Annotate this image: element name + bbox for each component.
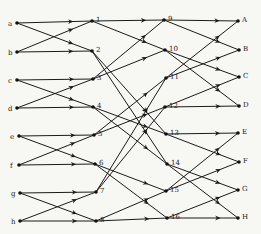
- node-label: e: [10, 133, 14, 141]
- edge-e-5: [19, 135, 94, 136]
- edge-7-12: [96, 107, 165, 192]
- node-10: [163, 48, 167, 52]
- node-9: [162, 18, 166, 22]
- arrow-icon: [217, 41, 219, 42]
- node-label: c: [8, 77, 12, 85]
- arrow-icon: [217, 154, 218, 155]
- arrow-icon: [216, 149, 217, 150]
- edge-d-3: [17, 79, 93, 108]
- node-label: A: [241, 16, 248, 24]
- edge-3-9: [93, 20, 164, 79]
- node-E: [236, 131, 240, 135]
- node-label: G: [242, 185, 248, 193]
- node-H: [236, 216, 240, 220]
- node-g: [18, 191, 22, 195]
- node-label: 15: [170, 186, 179, 194]
- node-label: 12: [169, 102, 178, 110]
- arrow-icon: [73, 213, 75, 214]
- node-b: [15, 50, 19, 54]
- node-label: 9: [168, 15, 172, 23]
- arrow-icon: [72, 156, 74, 157]
- arrow-icon: [70, 43, 72, 44]
- edge-c-3: [17, 79, 93, 80]
- edge-8-16: [96, 218, 167, 221]
- node-label: B: [243, 45, 248, 53]
- node-f: [17, 163, 21, 167]
- node-h: [18, 219, 22, 223]
- node-a: [15, 21, 19, 25]
- arrow-icon: [143, 37, 144, 38]
- arrow-icon: [217, 182, 218, 183]
- edge-b-1: [17, 21, 92, 52]
- node-label: E: [242, 128, 247, 136]
- node-label: b: [8, 49, 13, 57]
- edge-6-16: [95, 164, 167, 218]
- arrow-icon: [70, 87, 72, 88]
- node-D: [237, 104, 241, 108]
- node-label: 2: [96, 46, 100, 54]
- edge-9-A: [164, 20, 238, 21]
- node-e: [17, 134, 21, 138]
- node-label: 6: [99, 159, 104, 167]
- node-label: F: [243, 157, 248, 165]
- edge-1-10: [92, 21, 165, 50]
- node-label: 16: [171, 213, 180, 221]
- edges-group: [17, 20, 239, 221]
- edge-f-5: [19, 135, 94, 165]
- arrow-icon: [216, 37, 217, 38]
- node-14: [165, 162, 169, 166]
- node-label: f: [10, 162, 14, 170]
- node-8: [94, 219, 98, 223]
- arrow-icon: [217, 202, 218, 203]
- node-label: d: [8, 105, 13, 113]
- arrow-icon: [144, 109, 145, 111]
- node-label: h: [11, 218, 16, 226]
- node-15: [164, 189, 168, 193]
- arrow-icon: [143, 41, 144, 42]
- edge-2-14: [92, 51, 167, 164]
- arrow-icon: [217, 170, 218, 171]
- node-4: [91, 105, 95, 109]
- arrow-icon: [73, 200, 75, 201]
- arrow-icon: [145, 199, 146, 200]
- arrow-icon: [145, 183, 146, 184]
- node-label: 14: [171, 159, 180, 167]
- node-label: 8: [100, 216, 104, 224]
- node-13: [164, 132, 168, 136]
- node-16: [165, 216, 169, 220]
- node-6: [93, 162, 97, 166]
- arrow-icon: [217, 198, 218, 199]
- node-G: [236, 188, 240, 192]
- edge-g-7: [20, 192, 96, 193]
- edge-13-F: [166, 134, 239, 162]
- edge-4-14: [93, 107, 167, 164]
- node-12: [163, 105, 167, 109]
- edge-d-4: [17, 107, 93, 108]
- node-F: [237, 160, 241, 164]
- edge-1-9: [92, 20, 164, 21]
- edge-5-11: [94, 78, 166, 135]
- edge-a-1: [17, 21, 92, 23]
- node-B: [237, 48, 241, 52]
- edge-f-6: [19, 164, 95, 165]
- edge-6-15: [95, 164, 166, 191]
- node-label: C: [243, 72, 248, 80]
- node-3: [91, 77, 95, 81]
- node-label: 1: [96, 16, 100, 24]
- arrow-icon: [217, 69, 218, 70]
- node-7: [94, 190, 98, 194]
- arrow-icon: [145, 202, 146, 203]
- arrow-icon: [144, 94, 145, 95]
- node-A: [236, 19, 240, 23]
- arrow-icon: [70, 99, 72, 100]
- node-2: [90, 49, 94, 53]
- node-c: [15, 78, 19, 82]
- arrow-icon: [217, 85, 218, 86]
- node-label: D: [243, 101, 249, 109]
- node-label: 3: [97, 74, 101, 82]
- arrow-icon: [143, 58, 144, 59]
- node-5: [92, 133, 96, 137]
- edge-8-15: [96, 191, 166, 221]
- edge-b-2: [17, 51, 92, 52]
- node-label: 10: [169, 45, 178, 53]
